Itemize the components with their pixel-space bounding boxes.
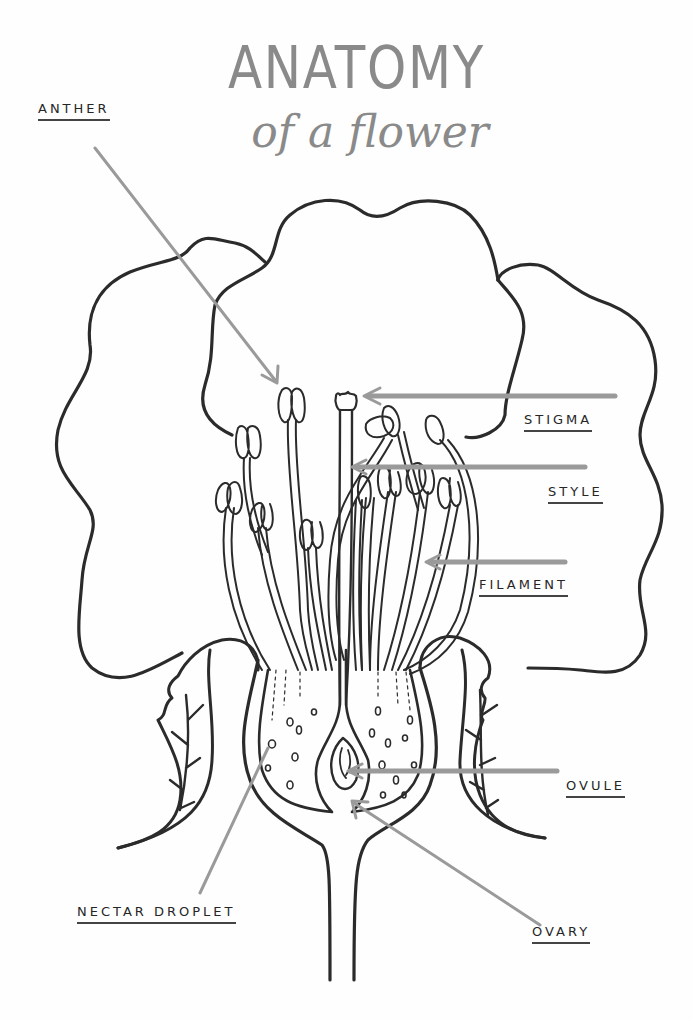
sepal-left-vein [170,695,203,810]
sepal-right-inner [460,650,545,838]
petal-top-inner-edge [466,280,524,438]
label-filament: FILAMENT [479,577,568,597]
petal-top [203,200,498,435]
label-stigma: STIGMA [524,412,592,432]
receptacle-left [244,660,330,980]
ovule [331,738,358,789]
ovule-inner [340,748,350,778]
pointer-ovary [354,803,540,925]
label-nectar-droplet: NECTAR DROPLET [77,904,236,924]
petal-left [56,238,265,677]
sepal-right-outer [420,637,545,838]
label-style: STYLE [548,484,603,504]
sepal-left-inner [118,650,213,848]
label-anther: ANTHER [38,101,110,121]
label-ovary: OVARY [532,924,590,944]
diagram-page: ANATOMY of a flower [0,0,693,1020]
flower-illustration [0,0,693,1020]
receptacle-right [354,668,436,980]
stigma [335,392,356,410]
pointer-anther [95,148,275,380]
label-ovule: OVULE [566,778,625,798]
